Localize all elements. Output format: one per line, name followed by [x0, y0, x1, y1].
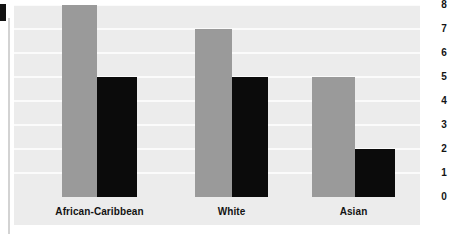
chart-figure: 012345678 African-CaribbeanWhiteAsian [0, 0, 463, 237]
y-tick-label-3: 3 [441, 120, 447, 130]
x-axis-label: White [218, 206, 246, 217]
bar [355, 149, 395, 197]
bars-layer [14, 5, 420, 197]
bar [232, 77, 268, 197]
y-axis: 012345678 [422, 5, 449, 197]
y-tick-label-8: 8 [441, 0, 447, 10]
scan-artifact-rule [8, 18, 10, 234]
y-tick-label-2: 2 [441, 144, 447, 154]
y-tick-label-6: 6 [441, 48, 447, 58]
bar-group [195, 5, 268, 197]
y-tick-label-5: 5 [441, 72, 447, 82]
y-tick-label-0: 0 [441, 192, 447, 202]
scan-artifact-mark [0, 4, 6, 21]
bar-group [62, 5, 137, 197]
plot-area [14, 5, 420, 197]
bar [195, 29, 232, 197]
x-axis-label: African-Caribbean [55, 206, 143, 217]
x-axis-label-band: African-CaribbeanWhiteAsian [14, 197, 420, 225]
bar-chart: 012345678 African-CaribbeanWhiteAsian [14, 5, 449, 225]
y-tick-label-1: 1 [441, 168, 447, 178]
bar-group [312, 5, 395, 197]
bar [62, 5, 97, 197]
bar [312, 77, 355, 197]
y-tick-label-7: 7 [441, 24, 447, 34]
y-tick-label-4: 4 [441, 96, 447, 106]
x-axis-label: Asian [340, 206, 368, 217]
bar [97, 77, 137, 197]
